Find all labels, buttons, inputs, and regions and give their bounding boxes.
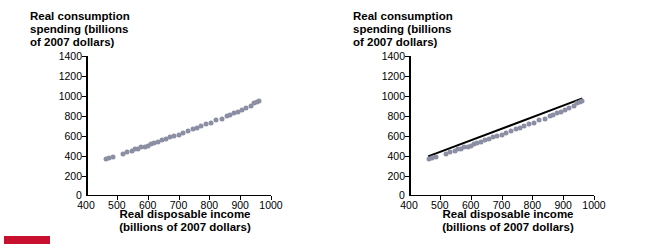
y-tick-label: 1200	[42, 70, 82, 82]
y-tick-label: 1200	[365, 70, 405, 82]
chart-panel-left: Real consumption spending (billions of 2…	[0, 0, 323, 246]
x-tick-mark	[594, 196, 595, 200]
y-axis-label-left-line3: of 2007 dollars)	[30, 36, 170, 49]
data-point	[198, 124, 203, 129]
data-point	[537, 118, 542, 123]
y-tick-label: 200	[365, 170, 405, 182]
y-tick-mark	[82, 96, 86, 97]
y-tick-label: 400	[365, 150, 405, 162]
y-tick-mark	[82, 76, 86, 77]
x-axis-label-right-line1: Real disposable income	[383, 208, 633, 221]
y-axis-label-left-line2: spending (billions	[30, 23, 170, 36]
plot-area-left: 0 20040060080010001200140040050060070080…	[86, 56, 271, 196]
y-tick-label: 600	[365, 130, 405, 142]
x-axis-label-right-line2: (billions of 2007 dollars)	[383, 221, 633, 234]
x-tick-mark	[532, 196, 533, 200]
y-tick-label: 1400	[365, 50, 405, 62]
data-point	[579, 99, 584, 104]
y-tick-label: 1000	[42, 90, 82, 102]
y-tick-label: 400	[42, 150, 82, 162]
y-tick-mark	[82, 176, 86, 177]
y-tick-mark	[82, 156, 86, 157]
x-tick-mark	[148, 196, 149, 200]
chart-panel-right: Real consumption spending (billions of 2…	[323, 0, 646, 246]
y-tick-label: 1000	[365, 90, 405, 102]
y-axis-label-right-line1: Real consumption	[353, 10, 493, 23]
y-axis-label-right-line3: of 2007 dollars)	[353, 36, 493, 49]
y-axis-label-left-line1: Real consumption	[30, 10, 170, 23]
x-axis-label-right: Real disposable income (billions of 2007…	[383, 208, 633, 234]
y-tick-mark	[82, 56, 86, 57]
y-axis-label-right: Real consumption spending (billions of 2…	[353, 10, 493, 49]
y-axis-label-right-line2: spending (billions	[353, 23, 493, 36]
y-tick-label: 800	[42, 110, 82, 122]
x-tick-mark	[563, 196, 564, 200]
x-tick-mark	[471, 196, 472, 200]
x-tick-mark	[179, 196, 180, 200]
x-axis-label-left: Real disposable income (billions of 2007…	[60, 208, 310, 234]
y-tick-mark	[82, 136, 86, 137]
color-swatch	[4, 236, 50, 244]
y-axis-line-left	[86, 56, 88, 196]
x-tick-mark	[209, 196, 210, 200]
x-tick-mark	[502, 196, 503, 200]
y-tick-label: 1400	[42, 50, 82, 62]
y-axis-label-left: Real consumption spending (billions of 2…	[30, 10, 170, 49]
y-tick-mark	[82, 116, 86, 117]
data-point	[256, 99, 261, 104]
plot-area-right: 0 20040060080010001200140040050060070080…	[409, 56, 594, 196]
x-tick-mark	[117, 196, 118, 200]
x-tick-mark	[240, 196, 241, 200]
y-tick-label: 800	[365, 110, 405, 122]
data-point	[110, 155, 115, 160]
data-point	[521, 124, 526, 129]
x-tick-mark	[271, 196, 272, 200]
y-tick-label: 200	[42, 170, 82, 182]
data-point	[433, 155, 438, 160]
figure-container: Real consumption spending (billions of 2…	[0, 0, 646, 246]
y-tick-label: 600	[42, 130, 82, 142]
x-tick-mark	[440, 196, 441, 200]
x-axis-label-left-line2: (billions of 2007 dollars)	[60, 221, 310, 234]
x-axis-label-left-line1: Real disposable income	[60, 208, 310, 221]
trend-line	[409, 56, 594, 196]
data-point	[214, 118, 219, 123]
